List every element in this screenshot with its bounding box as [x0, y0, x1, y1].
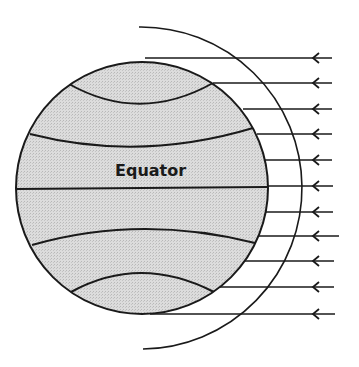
sun-ray-6	[267, 181, 333, 191]
earth-radiation-diagram: Equator	[0, 0, 359, 367]
sun-ray-10	[220, 282, 334, 292]
sun-ray-2	[213, 78, 332, 88]
sun-ray-3	[243, 104, 332, 114]
sun-ray-11	[150, 309, 335, 319]
equator-label: Equator	[115, 161, 186, 180]
sun-ray-1	[145, 53, 332, 63]
sun-ray-9	[245, 256, 334, 266]
sun-ray-8	[258, 231, 339, 241]
